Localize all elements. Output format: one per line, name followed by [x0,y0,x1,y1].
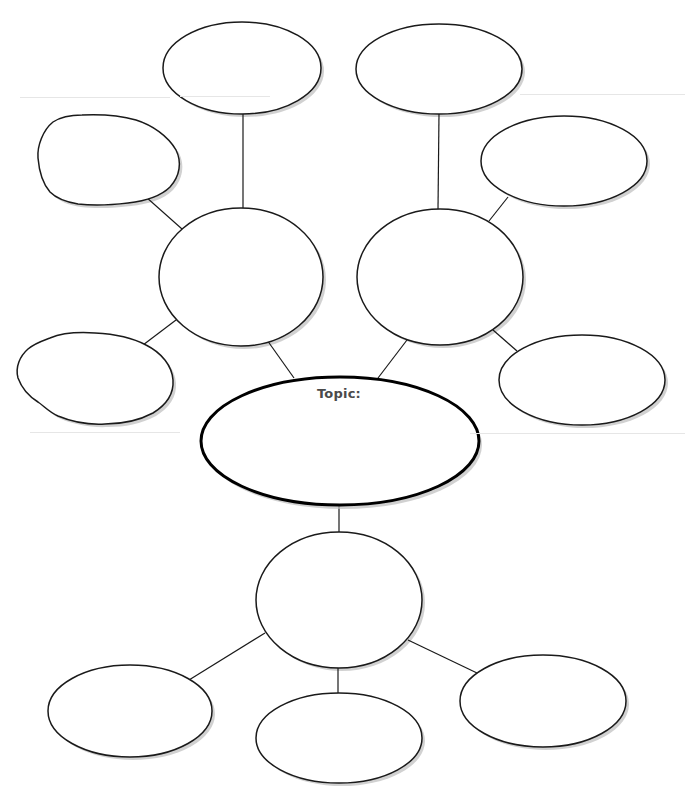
bottom-hub-circle[interactable] [256,532,422,668]
connector-bottom-hub-to-bottom-right [408,640,477,673]
connector-bottom-hub-to-bottom-left [189,633,265,680]
upper-left-blob[interactable] [38,115,179,205]
bottom-middle-oval[interactable] [256,693,422,783]
bottom-left-oval[interactable] [48,665,212,757]
top-left-oval[interactable] [163,22,321,114]
connector-left-hub-to-topic [267,340,294,378]
lower-right-oval[interactable] [499,335,665,425]
connector-upper-left-to-left-hub [146,197,182,229]
lower-left-blob[interactable] [17,333,173,425]
scan-line [520,94,685,95]
connector-lower-left-to-left-hub [143,320,176,345]
scan-line [30,432,180,433]
right-hub-circle[interactable] [357,209,523,345]
bottom-right-oval[interactable] [460,655,626,747]
connector-right-hub-to-topic [378,340,407,378]
top-right-oval[interactable] [356,24,522,114]
scan-line [180,96,270,97]
left-hub-circle[interactable] [159,208,323,346]
connector-lower-right-to-right-hub [493,330,517,351]
scan-line [20,97,170,98]
upper-right-oval[interactable] [481,116,647,206]
connector-top-right-to-right-hub [438,113,439,209]
topic-label: Topic: [317,386,361,401]
scan-line [470,433,685,434]
connector-upper-right-to-right-hub [489,197,508,221]
